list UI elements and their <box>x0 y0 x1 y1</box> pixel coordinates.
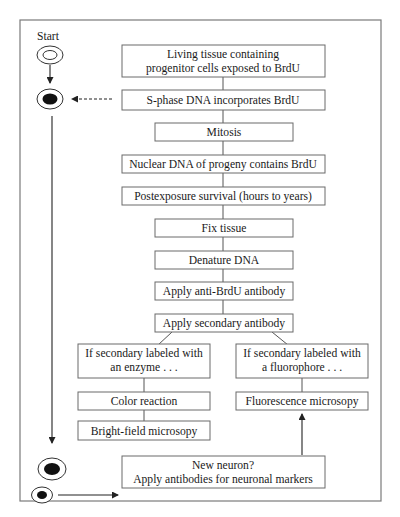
brdu-labeling-flowchart: Start Living tissue containing progenito… <box>0 0 400 517</box>
step-enzyme-branch: If secondary labeled with an enzyme . . … <box>78 344 210 378</box>
svg-text:Fluorescence microsopy: Fluorescence microsopy <box>245 395 358 408</box>
svg-text:If secondary labeled with: If secondary labeled with <box>243 347 361 360</box>
svg-text:progenitor cells exposed to Br: progenitor cells exposed to BrdU <box>146 62 301 75</box>
svg-text:Nuclear DNA of progeny contain: Nuclear DNA of progeny contains BrdU <box>129 158 317 171</box>
step-denature-dna: Denature DNA <box>155 251 293 269</box>
labeled-progeny-cell-icon <box>38 458 66 480</box>
brdu-labeled-cell-icon <box>37 89 63 109</box>
svg-text:Mitosis: Mitosis <box>207 126 242 139</box>
step-bright-field: Bright-field microsopy <box>78 421 210 440</box>
svg-text:Fix tissue: Fix tissue <box>202 222 247 235</box>
svg-text:If secondary labeled with: If secondary labeled with <box>85 347 203 360</box>
svg-text:Postexposure survival (hours t: Postexposure survival (hours to years) <box>134 190 312 203</box>
step-fluorescence: Fluorescence microsopy <box>236 392 368 410</box>
step-apply-secondary: Apply secondary antibody <box>155 314 293 332</box>
svg-text:Denature DNA: Denature DNA <box>189 254 260 267</box>
svg-text:Color reaction: Color reaction <box>111 395 178 408</box>
unlabeled-progenitor-cell-icon <box>37 46 63 64</box>
svg-text:an enzyme . . .: an enzyme . . . <box>110 361 177 374</box>
svg-text:Apply antibodies for neuronal: Apply antibodies for neuronal markers <box>133 473 313 486</box>
svg-text:a fluorophore . . .: a fluorophore . . . <box>262 361 342 374</box>
svg-text:Bright-field microsopy: Bright-field microsopy <box>91 425 198 438</box>
svg-text:Apply secondary antibody: Apply secondary antibody <box>163 317 286 330</box>
step-nuclear-dna: Nuclear DNA of progeny contains BrdU <box>122 155 325 173</box>
step-color-reaction: Color reaction <box>78 392 210 410</box>
start-label: Start <box>37 30 60 43</box>
svg-text:New neuron?: New neuron? <box>192 459 254 472</box>
step-mitosis: Mitosis <box>155 123 293 141</box>
svg-text:Living tissue containing: Living tissue containing <box>167 48 279 61</box>
step-s-phase: S-phase DNA incorporates BrdU <box>122 90 325 110</box>
branch-connector-right <box>272 332 288 345</box>
step-living-tissue: Living tissue containing progenitor cell… <box>122 45 325 77</box>
step-fluorophore-branch: If secondary labeled with a fluorophore … <box>236 344 368 378</box>
branch-connector-left <box>158 332 172 345</box>
svg-text:Apply anti-BrdU antibody: Apply anti-BrdU antibody <box>163 285 286 298</box>
step-apply-anti-brdu: Apply anti-BrdU antibody <box>155 282 293 300</box>
step-postexposure-survival: Postexposure survival (hours to years) <box>122 187 325 205</box>
labeled-small-cell-icon <box>32 487 53 503</box>
step-new-neuron: New neuron? Apply antibodies for neurona… <box>122 456 325 488</box>
step-fix-tissue: Fix tissue <box>155 219 293 237</box>
svg-text:S-phase DNA incorporates BrdU: S-phase DNA incorporates BrdU <box>147 94 301 107</box>
